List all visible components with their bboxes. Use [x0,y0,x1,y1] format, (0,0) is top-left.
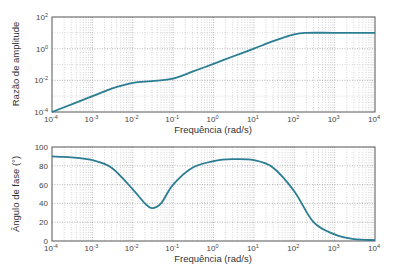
tick-label: 10-2 [125,243,139,253]
tick-label: 60 [39,181,48,190]
tick-label: 10-4 [44,114,58,124]
tick-label: 103 [328,114,340,124]
tick-label: 10-1 [165,114,179,124]
tick-label: 10-3 [84,114,98,124]
tick-label: 100 [35,143,49,152]
phase-ylabel: Ângulo de fase (°) [10,156,21,232]
tick-label: 10-1 [165,243,179,253]
tick-label: 103 [328,243,340,253]
tick-label: 102 [36,12,48,22]
tick-label: 10-2 [34,75,48,85]
tick-label: 20 [39,218,48,227]
tick-label: 104 [368,243,380,253]
tick-label: 100 [207,243,219,253]
tick-label: 101 [247,114,259,124]
tick-label: 102 [287,114,299,124]
tick-label: 10-2 [125,114,139,124]
tick-label: 40 [39,199,48,208]
tick-label: 100 [207,114,219,124]
amplitude-xlabel: Frequência (rad/s) [174,124,252,135]
tick-label: 100 [36,44,48,54]
tick-label: 104 [368,114,380,124]
tick-label: 0 [44,237,49,246]
tick-label: 80 [39,162,48,171]
tick-label: 102 [287,243,299,253]
bode-plot: 10-410-310-210-110010110210310410-410-21… [0,0,402,279]
amplitude-ylabel: Razão de amplitude [10,22,21,107]
phase-xlabel: Frequência (rad/s) [174,253,252,264]
tick-label: 101 [247,243,259,253]
tick-label: 10-3 [84,243,98,253]
